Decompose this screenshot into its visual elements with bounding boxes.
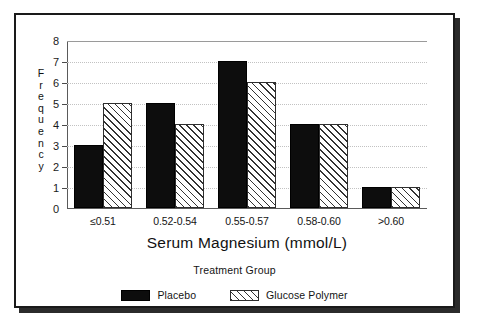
- legend-items: PlaceboGlucose Polymer: [16, 289, 453, 301]
- bar-placebo: [362, 187, 391, 208]
- y-axis-title-letter: c: [33, 149, 49, 161]
- legend: Treatment Group PlaceboGlucose Polymer: [16, 264, 453, 301]
- y-tick-label: 6: [53, 77, 59, 89]
- legend-label: Glucose Polymer: [266, 289, 347, 301]
- bar-placebo: [290, 124, 319, 208]
- bar-placebo: [146, 103, 175, 208]
- bar-group: [211, 40, 283, 208]
- bar-glucose-polymer: [103, 103, 132, 208]
- y-axis-title-letter: e: [33, 126, 49, 138]
- y-tick-label: 3: [53, 140, 59, 152]
- bar-glucose-polymer: [247, 82, 276, 208]
- legend-label: Placebo: [157, 289, 196, 301]
- bar-group: [139, 40, 211, 208]
- y-tick-label: 5: [53, 98, 59, 110]
- bar-placebo: [74, 145, 103, 208]
- y-tick-label: 8: [53, 35, 59, 47]
- bar-glucose-polymer: [175, 124, 204, 208]
- x-tick-label: 0.55-0.57: [225, 215, 268, 227]
- y-tick-label: 2: [53, 161, 59, 173]
- y-tick-label: 0: [53, 203, 59, 215]
- x-tick-label: >0.60: [378, 215, 404, 227]
- bar-placebo: [218, 61, 247, 208]
- x-tick-label: 0.58-0.60: [297, 215, 340, 227]
- bar-group: [283, 40, 355, 208]
- y-tick-label: 1: [53, 182, 59, 194]
- y-axis-title-letter: F: [33, 68, 49, 80]
- legend-title: Treatment Group: [16, 264, 453, 276]
- bar-group: [67, 40, 139, 208]
- y-tick-label: 4: [53, 119, 59, 131]
- y-axis-title-letter: y: [33, 161, 49, 173]
- legend-swatch-glucose-polymer: [230, 290, 259, 301]
- figure-frame: Frequency 012345678 ≤0.510.52-0.540.55-0…: [14, 13, 455, 308]
- y-tick-label: 7: [53, 56, 59, 68]
- plot-area: 012345678 ≤0.510.52-0.540.55-0.570.58-0.…: [67, 41, 427, 209]
- bar-group: [355, 40, 427, 208]
- bar-glucose-polymer: [319, 124, 348, 208]
- legend-item: Glucose Polymer: [230, 289, 347, 301]
- x-axis-title: Serum Magnesium (mmol/L): [67, 234, 427, 252]
- x-axis-line: [67, 208, 427, 209]
- legend-swatch-placebo: [121, 290, 150, 301]
- x-tick-label: 0.52-0.54: [153, 215, 196, 227]
- x-tick-label: ≤0.51: [90, 215, 116, 227]
- legend-item: Placebo: [121, 289, 196, 301]
- y-axis-title: Frequency: [33, 68, 49, 172]
- bar-glucose-polymer: [391, 187, 420, 208]
